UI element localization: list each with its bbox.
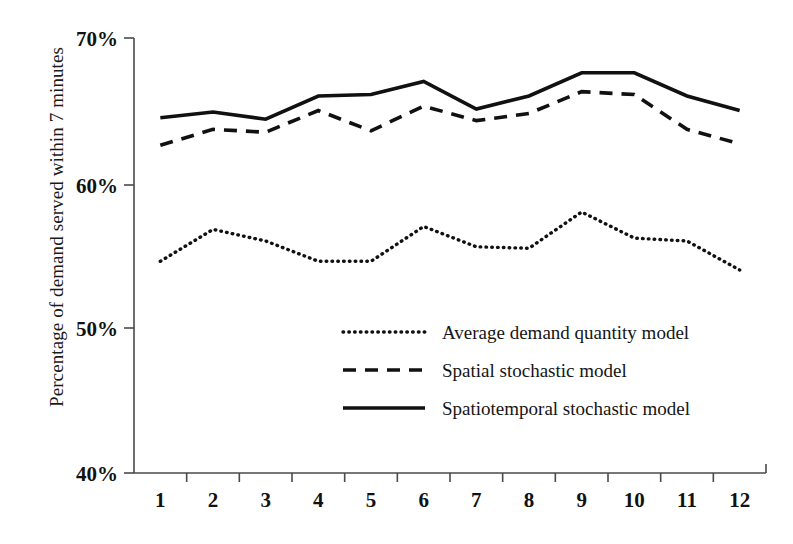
x-tick-label-5: 5 — [366, 488, 377, 512]
x-tick-label-8: 8 — [524, 488, 535, 512]
legend-entry-spatiotemporal-stochastic-model: Spatiotemporal stochastic model — [343, 398, 690, 419]
x-tick-label-10: 10 — [624, 488, 645, 512]
legend: Average demand quantity model Spatial st… — [343, 322, 690, 419]
legend-label-0: Average demand quantity model — [442, 322, 689, 343]
legend-label-1: Spatial stochastic model — [442, 360, 627, 381]
series-spatiotemporal-stochastic-model — [160, 73, 739, 119]
x-tick-label-11: 11 — [677, 488, 697, 512]
y-tick-label-50: 50% — [76, 317, 118, 341]
x-tick-labels: 123456789101112 — [155, 488, 750, 512]
x-axis: 123456789101112 — [134, 464, 766, 512]
x-tick-label-7: 7 — [471, 488, 482, 512]
x-tick-marks — [187, 473, 714, 482]
x-tick-label-12: 12 — [729, 488, 750, 512]
y-tick-label-70: 70% — [76, 27, 118, 51]
y-tick-label-40: 40% — [76, 462, 118, 486]
legend-entry-spatial-stochastic-model: Spatial stochastic model — [343, 360, 627, 381]
chart-page: Percentage of demand served within 7 min… — [0, 0, 793, 544]
x-tick-label-3: 3 — [260, 488, 271, 512]
y-tick-label-60: 60% — [76, 174, 118, 198]
x-tick-label-1: 1 — [155, 488, 166, 512]
legend-entry-average-demand-quantity-model: Average demand quantity model — [343, 322, 689, 343]
x-tick-label-2: 2 — [208, 488, 219, 512]
line-chart-plot: 70% 60% 50% 40% 123456789101112 Average … — [0, 0, 793, 544]
x-tick-label-4: 4 — [313, 488, 324, 512]
legend-label-2: Spatiotemporal stochastic model — [442, 398, 690, 419]
y-axis: 70% 60% 50% 40% — [76, 27, 134, 486]
data-series-group — [160, 73, 739, 270]
series-average-demand-quantity-model — [160, 212, 739, 270]
x-tick-label-6: 6 — [418, 488, 429, 512]
x-tick-label-9: 9 — [576, 488, 587, 512]
